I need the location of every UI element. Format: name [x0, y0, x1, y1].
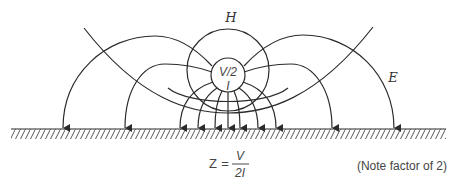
e-field-line-inner-1	[180, 82, 213, 128]
equation-numerator: V	[236, 149, 245, 163]
impedance-equation: Z = V 2I	[209, 149, 249, 180]
source-current-label: I	[226, 79, 230, 93]
ground-hatching	[11, 129, 446, 139]
ground-plane	[11, 129, 446, 139]
e-label: E	[387, 70, 398, 85]
source-voltage-label: V/2	[219, 65, 237, 79]
equation-denominator: 2I	[234, 166, 246, 180]
field-diagram: H E V/2 I Z = V 2I (Note factor of 2)	[0, 0, 457, 184]
note-text: (Note factor of 2)	[357, 159, 447, 173]
equation-equals: =	[221, 156, 229, 171]
h-label: H	[224, 10, 237, 25]
equation-lhs: Z	[209, 156, 217, 171]
e-field-line-inner-7	[243, 82, 276, 128]
